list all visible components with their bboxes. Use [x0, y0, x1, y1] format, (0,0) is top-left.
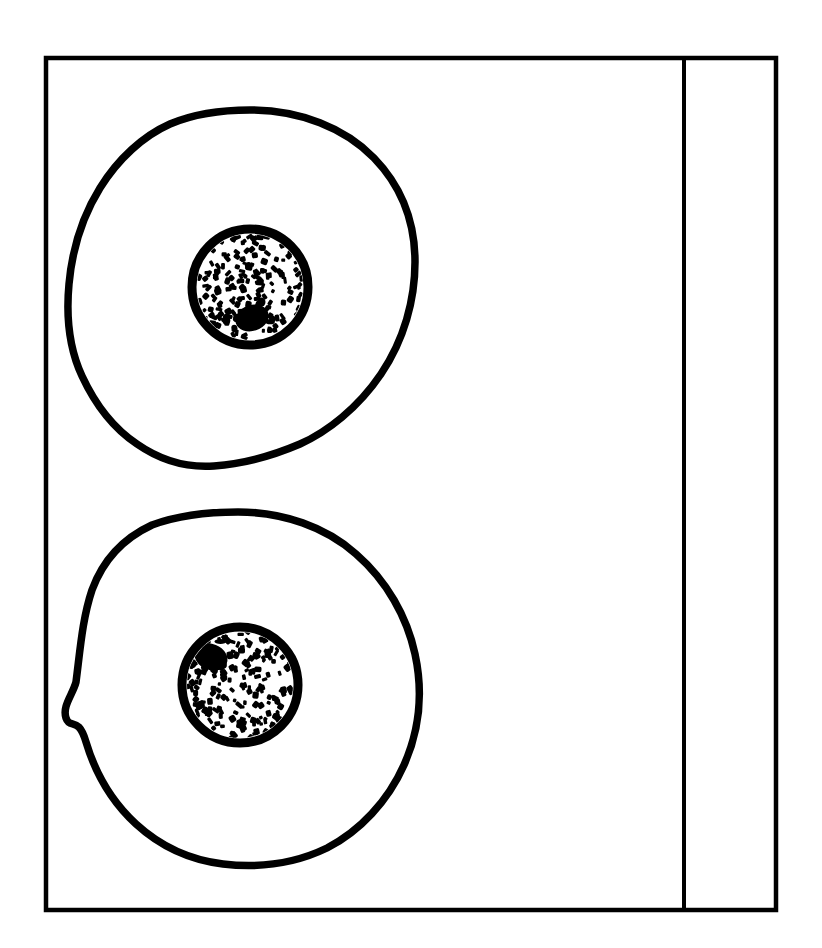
chromatin-speck	[225, 287, 232, 292]
chromatin-speck	[214, 721, 221, 726]
chromatin-speck	[231, 285, 237, 290]
nucleolus-satellite	[252, 306, 264, 312]
chromatin-speck	[213, 274, 219, 281]
chromatin-speck	[237, 633, 243, 636]
nucleolus-satellite	[266, 319, 275, 324]
chromatin-speck	[281, 299, 287, 305]
nucleolus-satellite	[267, 328, 273, 334]
chromatin-speck	[254, 666, 261, 672]
chromatin-speck	[248, 670, 252, 676]
chromatin-speck	[252, 691, 259, 699]
figure-root: Two-cell schematic line drawing Rectangu…	[0, 0, 822, 948]
chromatin-speck	[214, 269, 221, 275]
chromatin-speck	[227, 677, 231, 682]
chromatin-speck	[207, 698, 213, 705]
chromatin-speck	[219, 713, 223, 719]
nucleolus-satellite	[223, 314, 230, 320]
chromatin-speck	[251, 252, 258, 259]
chromatin-speck	[266, 273, 270, 280]
cell-diagram-canvas	[0, 0, 822, 948]
nucleolus-satellite	[218, 661, 225, 670]
chromatin-speck	[237, 278, 244, 283]
nucleolus-satellite	[212, 665, 218, 674]
chromatin-speck	[296, 296, 301, 303]
chromatin-speck	[221, 263, 225, 270]
nucleolus-satellite	[215, 639, 227, 644]
chromatin-speck	[240, 240, 245, 245]
nucleolus-satellite	[201, 665, 209, 671]
chromatin-speck	[220, 724, 225, 728]
nucleolus-satellite	[258, 297, 266, 306]
chromatin-speck	[218, 682, 222, 686]
chromatin-speck	[262, 329, 265, 333]
chromatin-speck	[194, 680, 199, 685]
chromatin-speck	[243, 700, 247, 705]
chromatin-speck	[281, 272, 285, 279]
chromatin-speck	[205, 710, 208, 716]
nucleolus-satellite	[231, 325, 237, 331]
chromatin-speck	[271, 659, 276, 664]
chromatin-speck	[252, 719, 256, 726]
chromatin-speck	[281, 259, 285, 262]
